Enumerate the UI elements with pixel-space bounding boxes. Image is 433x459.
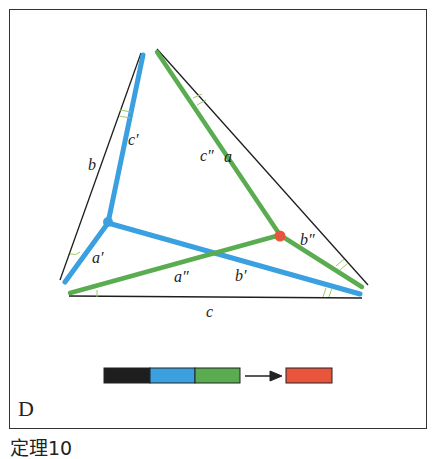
label-c: c [206,303,213,320]
label-b2: b″ [300,231,315,248]
label-a2: a″ [174,268,189,285]
label-b: b [88,156,96,173]
label-b1: b′ [235,267,247,284]
panel-letter: D [18,396,34,422]
red-point [275,231,286,242]
green-lines [70,52,362,293]
legend-bar [104,368,332,383]
label-a1: a′ [92,249,104,266]
label-c1: c′ [128,131,139,148]
label-c2: c″ [200,147,214,164]
label-a: a [224,148,232,165]
blue-point [103,217,113,227]
arrow-right-icon [270,371,282,381]
diagram: a b c a′ b′ c′ a″ b″ c″ [0,0,433,459]
caption: 定理10 [10,433,72,459]
